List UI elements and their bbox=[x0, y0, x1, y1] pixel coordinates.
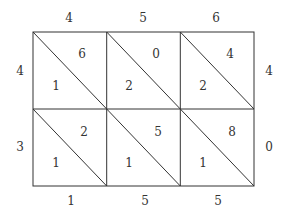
cell-upper-digit: 2 bbox=[76, 125, 92, 139]
cell-upper-digit: 5 bbox=[150, 125, 166, 139]
left-digit: 4 bbox=[12, 64, 28, 78]
bottom-digit: 5 bbox=[137, 194, 153, 208]
lattice-grid bbox=[0, 0, 283, 218]
cell-lower-digit: 2 bbox=[195, 79, 211, 93]
top-digit: 4 bbox=[61, 11, 77, 25]
left-digit: 3 bbox=[12, 140, 28, 154]
bottom-digit: 1 bbox=[63, 194, 79, 208]
cell-lower-digit: 1 bbox=[121, 156, 137, 170]
right-digit: 0 bbox=[261, 140, 277, 154]
right-digit: 4 bbox=[261, 64, 277, 78]
bottom-digit: 5 bbox=[210, 194, 226, 208]
cell-upper-digit: 6 bbox=[74, 47, 90, 61]
cell-upper-digit: 4 bbox=[222, 47, 238, 61]
cell-lower-digit: 1 bbox=[48, 79, 64, 93]
cell-lower-digit: 1 bbox=[195, 156, 211, 170]
top-digit: 6 bbox=[208, 11, 224, 25]
top-digit: 5 bbox=[135, 11, 151, 25]
cell-lower-digit: 1 bbox=[48, 156, 64, 170]
cell-lower-digit: 2 bbox=[121, 79, 137, 93]
cell-upper-digit: 0 bbox=[148, 47, 164, 61]
cell-upper-digit: 8 bbox=[224, 125, 240, 139]
